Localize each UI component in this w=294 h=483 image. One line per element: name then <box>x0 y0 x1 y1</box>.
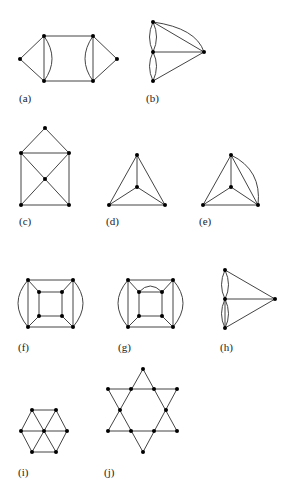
graph-d <box>109 155 165 205</box>
graph-e <box>203 155 258 205</box>
graph-h <box>222 270 276 328</box>
label-f: (f) <box>18 341 29 353</box>
label-h: (h) <box>220 341 233 353</box>
label-a: (a) <box>19 92 31 104</box>
graph-b <box>150 22 205 81</box>
graph-f <box>18 280 83 327</box>
graph-g <box>118 280 183 327</box>
label-c: (c) <box>19 215 31 227</box>
label-d: (d) <box>106 215 119 227</box>
label-e: (e) <box>199 215 211 227</box>
label-g: (g) <box>118 341 131 353</box>
label-b: (b) <box>146 92 159 104</box>
graph-figure <box>0 0 294 483</box>
label-j: (j) <box>104 466 114 478</box>
graph-c <box>21 128 69 205</box>
label-i: (i) <box>18 466 28 478</box>
graph-a <box>20 36 117 81</box>
